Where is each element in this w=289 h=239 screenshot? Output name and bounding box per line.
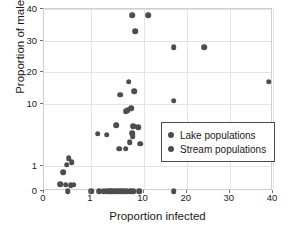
- gridline-vertical: [187, 9, 188, 189]
- data-point: [137, 141, 143, 147]
- y-axis-tick-label: 0: [11, 185, 37, 196]
- data-point: [145, 13, 151, 19]
- y-axis-label: Proportion of males: [14, 0, 26, 119]
- y-axis-tick: [40, 103, 43, 104]
- data-point: [130, 134, 136, 140]
- scatter-chart-figure: 01102030400110203040 Proportion infected…: [0, 0, 289, 239]
- x-axis-tick-label: 20: [180, 192, 191, 203]
- chart-legend: Lake populations Stream populations: [161, 122, 275, 162]
- data-point: [104, 132, 110, 138]
- x-axis-tick-label: 0: [40, 192, 45, 203]
- gridline-horizontal: [44, 72, 271, 73]
- x-axis-tick-label: 10: [137, 192, 148, 203]
- x-axis-tick-label: 30: [224, 192, 235, 203]
- x-axis-label: Proportion infected: [43, 210, 272, 222]
- gridline-horizontal: [44, 104, 271, 105]
- gridline-vertical: [91, 9, 92, 189]
- data-point: [117, 92, 123, 98]
- y-axis-tick: [40, 8, 43, 9]
- data-point: [171, 188, 177, 194]
- legend-item-stream-populations[interactable]: Stream populations: [168, 142, 266, 156]
- legend-marker-icon: [168, 146, 174, 152]
- data-point: [126, 79, 132, 85]
- gridline-vertical: [144, 9, 145, 189]
- data-point: [131, 89, 137, 95]
- data-point: [60, 170, 66, 176]
- x-axis-tick-label: 1: [87, 192, 92, 203]
- data-point: [71, 182, 77, 188]
- y-axis-tick: [40, 165, 43, 166]
- data-point: [65, 188, 71, 194]
- legend-item-label: Stream populations: [180, 144, 266, 155]
- y-axis-tick: [40, 190, 43, 191]
- data-point: [129, 13, 135, 19]
- gridline-horizontal: [44, 41, 271, 42]
- data-point: [135, 125, 141, 131]
- legend-item-label: Lake populations: [180, 130, 256, 141]
- data-point: [171, 98, 177, 104]
- data-point: [113, 122, 119, 128]
- data-point: [266, 79, 272, 85]
- data-point: [133, 28, 139, 34]
- y-axis-tick: [40, 71, 43, 72]
- data-point: [123, 146, 129, 152]
- x-axis-tick-label: 40: [267, 192, 278, 203]
- data-point: [130, 188, 136, 194]
- y-axis-tick-label: 1: [11, 160, 37, 171]
- gridline-horizontal: [44, 166, 271, 167]
- data-point: [64, 162, 70, 168]
- legend-item-lake-populations[interactable]: Lake populations: [168, 128, 266, 142]
- data-point: [116, 146, 122, 152]
- legend-marker-icon: [168, 132, 174, 138]
- data-point: [171, 44, 177, 50]
- data-point: [123, 109, 129, 115]
- gridline-vertical: [230, 9, 231, 189]
- data-point: [127, 140, 133, 146]
- plot-area: [43, 8, 272, 190]
- gridline-horizontal: [44, 9, 271, 10]
- y-axis-tick: [40, 40, 43, 41]
- data-point: [201, 44, 207, 50]
- data-point: [95, 131, 101, 137]
- gridline-vertical: [273, 9, 274, 189]
